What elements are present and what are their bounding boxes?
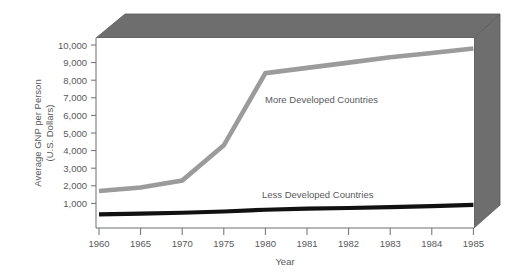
gnp-line-chart: 10,000 9,000 8,000 7,000 6,000 5,000 4,0… [0, 0, 518, 274]
y-tick-label: 9,000 [63, 57, 87, 68]
x-tick-label: 1981 [296, 238, 317, 249]
x-tick-label: 1960 [88, 238, 109, 249]
x-tick-label: 1982 [338, 238, 359, 249]
y-tick-label: 1,000 [63, 198, 87, 209]
x-axis-title: Year [275, 256, 294, 267]
y-tick-label: 8,000 [63, 75, 87, 86]
y-tick-label: 7,000 [63, 92, 87, 103]
x-axis-ticks: 1960 1965 1970 1975 1980 1981 1982 1983 … [88, 228, 484, 249]
y-tick-label: 3,000 [63, 163, 87, 174]
chart-svg: 10,000 9,000 8,000 7,000 6,000 5,000 4,0… [0, 0, 518, 274]
frame-right-panel [474, 14, 500, 228]
x-tick-label: 1970 [172, 238, 193, 249]
x-tick-label: 1980 [255, 238, 276, 249]
y-tick-label: 2,000 [63, 180, 87, 191]
x-tick-label: 1985 [463, 238, 484, 249]
series-label-less-developed: Less Developed Countries [262, 189, 374, 200]
y-tick-label: 4,000 [63, 145, 87, 156]
y-tick-label: 5,000 [63, 128, 87, 139]
y-axis-title-line1: Average GNP per Person [32, 79, 43, 186]
y-axis-title-line2: (U.S. Dollars) [44, 104, 55, 161]
series-label-more-developed: More Developed Countries [265, 94, 378, 105]
x-tick-label: 1975 [213, 238, 234, 249]
x-tick-label: 1965 [130, 238, 151, 249]
x-tick-label: 1984 [421, 238, 442, 249]
frame-top-band [96, 14, 500, 38]
y-axis-ticks: 10,000 9,000 8,000 7,000 6,000 5,000 4,0… [58, 40, 96, 209]
y-tick-label: 6,000 [63, 110, 87, 121]
y-tick-label: 10,000 [58, 40, 87, 51]
x-tick-label: 1983 [380, 238, 401, 249]
